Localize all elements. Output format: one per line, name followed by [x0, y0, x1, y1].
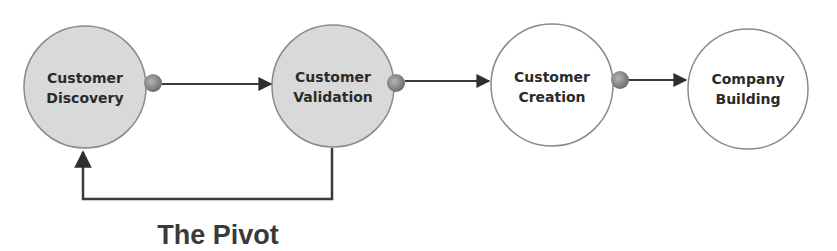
node-customer-validation: Customer Validation: [272, 25, 405, 147]
node-circle: [24, 26, 146, 148]
node-circle: [688, 29, 808, 149]
customer-development-diagram: Customer Discovery Customer Validation C…: [0, 0, 837, 251]
connector-dot-icon: [144, 74, 162, 92]
node-label-line2: Discovery: [46, 90, 123, 106]
pivot-loop-arrow: [83, 148, 332, 199]
node-customer-discovery: Customer Discovery: [24, 26, 162, 148]
node-circle: [491, 24, 613, 146]
node-label-line2: Creation: [518, 89, 585, 105]
node-label-line1: Company: [711, 71, 784, 87]
node-label-line2: Validation: [293, 89, 373, 105]
node-label-line1: Customer: [295, 69, 371, 85]
node-customer-creation: Customer Creation: [491, 24, 629, 146]
pivot-label: The Pivot: [157, 220, 279, 250]
node-circle: [272, 25, 394, 147]
connector-dot-icon: [387, 74, 405, 92]
node-label-line1: Customer: [514, 69, 590, 85]
node-label-line1: Customer: [47, 70, 123, 86]
connector-dot-icon: [611, 71, 629, 89]
node-company-building: Company Building: [688, 29, 808, 149]
node-label-line2: Building: [715, 91, 780, 107]
